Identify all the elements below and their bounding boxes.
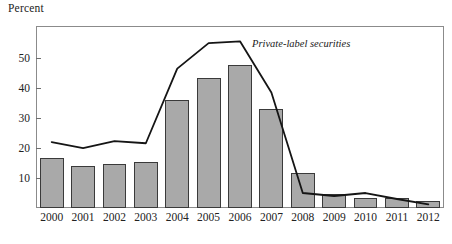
y-axis-tick-text: 20 [19,142,37,154]
x-axis-label-2001: 2001 [72,211,95,223]
x-axis-label-2006: 2006 [229,211,252,223]
x-axis-label-2008: 2008 [291,211,314,223]
x-axis-label-2012: 2012 [417,211,440,223]
plot-area-frame [36,26,444,208]
x-axis-tick-group: 2000200120022003200420052006200720082009… [36,211,444,233]
y-axis-tick-text: 10 [19,172,37,184]
x-axis-label-2004: 2004 [166,211,189,223]
x-axis-label-2000: 2000 [40,211,63,223]
chart-root: Percent 1020304050 200020012002200320042… [0,0,452,244]
x-axis-label-2007: 2007 [260,211,283,223]
y-axis-tick-mark [36,118,41,119]
y-axis-tick-mark [36,178,41,179]
y-axis-tick-mark [36,148,41,149]
x-axis-label-2005: 2005 [197,211,220,223]
x-axis-label-2011: 2011 [386,211,409,223]
y-axis-tick-text: 30 [19,112,37,124]
x-axis-label-2003: 2003 [134,211,157,223]
y-axis-tick-text: 40 [19,82,37,94]
y-axis-title: Percent [8,2,44,14]
x-axis-label-2002: 2002 [103,211,126,223]
y-axis-tick-mark [36,58,41,59]
x-axis-label-2010: 2010 [354,211,377,223]
y-axis-tick-mark [36,88,41,89]
y-axis-tick-text: 50 [19,52,37,64]
x-axis-label-2009: 2009 [323,211,346,223]
series-annotation-private-label-securities: Private-label securities [252,38,350,49]
